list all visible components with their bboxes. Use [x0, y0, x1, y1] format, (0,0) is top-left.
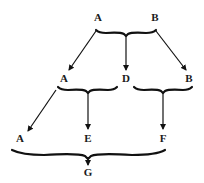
node-root: G [84, 166, 93, 178]
node-bottom-center: E [84, 132, 91, 144]
node-bottom-right: F [160, 132, 167, 144]
node-top-left: A [94, 11, 102, 23]
derivation-diagram: A B A D B A E F G [0, 0, 204, 183]
node-bottom-left: A [16, 132, 24, 144]
brace-mid-right [134, 87, 192, 93]
node-mid-right: B [185, 72, 193, 84]
node-mid-left: A [60, 72, 68, 84]
brace-mid-left [58, 87, 117, 93]
arrow-mid-to-bottom-left [28, 90, 56, 131]
brace-top [96, 30, 156, 36]
node-mid-center: D [122, 72, 130, 84]
node-top-right: B [151, 11, 159, 23]
brace-bottom [12, 150, 165, 159]
arrow-top-to-mid-right [156, 31, 186, 70]
arrow-top-to-mid-left [69, 31, 96, 70]
